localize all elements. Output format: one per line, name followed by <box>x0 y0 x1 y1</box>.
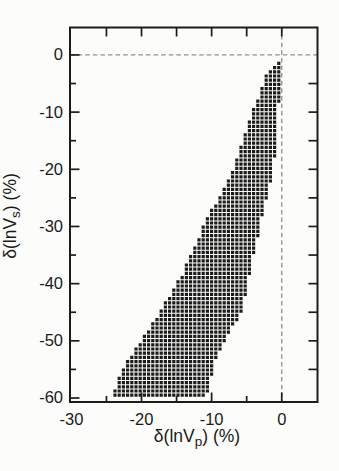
y-tick-label: -60 <box>39 388 63 406</box>
y-tick-label: -50 <box>39 331 63 349</box>
x-tick-label: -30 <box>59 410 83 428</box>
y-tick-label: -10 <box>39 103 63 121</box>
y-tick-label: -30 <box>39 217 63 235</box>
band-plot: -30-20-1000-10-20-30-40-50-60δ(lnVp) (%)… <box>0 0 339 471</box>
y-tick-label: -20 <box>39 160 63 178</box>
x-tick-label: -10 <box>200 410 224 428</box>
figure: -30-20-1000-10-20-30-40-50-60δ(lnVp) (%)… <box>0 0 339 471</box>
x-tick-label: -20 <box>130 410 154 428</box>
y-tick-label: 0 <box>54 45 63 63</box>
x-tick-label: 0 <box>277 410 286 428</box>
y-tick-label: -40 <box>39 274 63 292</box>
